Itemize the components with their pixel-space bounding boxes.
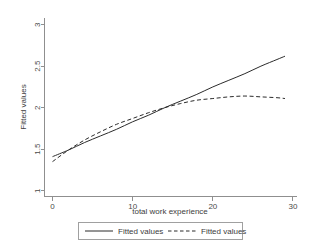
axes-group [45, 18, 298, 197]
y-tick-label: 1.5 [34, 143, 43, 155]
y-tick-label: 1 [34, 188, 43, 193]
x-tick-label: 20 [208, 202, 217, 211]
chart-container: 11.522.53 0102030 Fitted values total wo… [0, 0, 310, 246]
data-series-group [53, 56, 285, 161]
chart-legend: Fitted values Fitted values [79, 223, 247, 240]
legend-label-solid: Fitted values [118, 227, 163, 236]
x-tick-label: 30 [289, 202, 298, 211]
series-line-1 [53, 56, 285, 156]
x-axis-title: total work experience [132, 207, 208, 216]
legend-label-dashed: Fitted values [201, 227, 246, 236]
x-tick-label: 0 [50, 202, 55, 211]
y-tick-label: 2 [34, 105, 43, 110]
y-tick-label: 2.5 [34, 60, 43, 72]
y-axis-title: Fitted values [19, 84, 28, 129]
y-axis-ticks: 11.522.53 [34, 22, 45, 193]
fitted-values-line-chart: 11.522.53 0102030 Fitted values total wo… [0, 0, 310, 246]
y-tick-label: 3 [34, 22, 43, 27]
